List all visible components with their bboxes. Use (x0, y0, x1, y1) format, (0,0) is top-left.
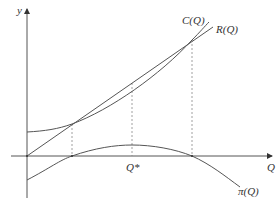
profit-curve-label: π(Q) (238, 186, 259, 197)
profit-maximization-diagram: y Q C(Q) R(Q) π(Q) Q* (0, 0, 280, 205)
breakeven-high-point-axis (191, 155, 193, 157)
optimum-quantity-label: Q* (126, 162, 139, 173)
cost-curve (27, 22, 209, 132)
x-axis-label: Q (267, 162, 275, 173)
y-axis-label: y (17, 5, 22, 16)
cost-curve-label: C(Q) (182, 15, 205, 26)
revenue-curve (27, 27, 213, 156)
diagram-canvas (0, 0, 280, 205)
origin-point (26, 155, 28, 157)
breakeven-point-axis (71, 155, 73, 157)
revenue-curve-label: R(Q) (216, 24, 238, 35)
